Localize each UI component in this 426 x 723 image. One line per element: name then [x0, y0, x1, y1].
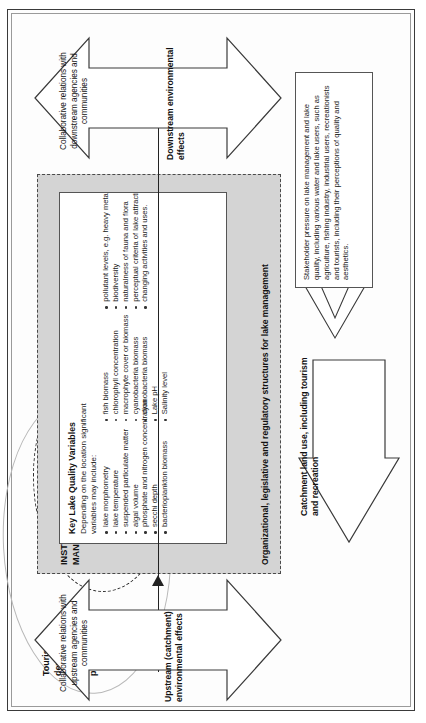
variable-list-item: pollutant levels, e.g. heavy metals [101, 202, 111, 309]
catchment-land-use-caption: Catchment land use, including tourism an… [299, 356, 321, 516]
variable-list-item: perceptual criteria of lake attractivene… [131, 202, 141, 309]
rotated-figure-wrapper: Tourism development, marketing, manageme… [0, 0, 426, 723]
upstream-effects-caption: Upstream (catchment) environmental effec… [163, 578, 185, 702]
variable-list-item: changing activities and uses. [140, 202, 150, 309]
stakeholder-pressure-box: Stakeholder pressure on lake management … [295, 72, 373, 288]
stakeholder-connector-arrow [303, 284, 367, 340]
variable-list-item: suspended particulate matter [121, 427, 131, 534]
institutional-arrangements-footer: Organizational, legislative and regulato… [260, 235, 272, 565]
variable-list-item: phosphate and nitrogen concentration [140, 427, 150, 534]
variables-box-intro: Depending on the location significant va… [79, 374, 99, 534]
upstream-collaboration-label: Collaborative relations with upstream ag… [59, 584, 91, 702]
variable-list-item: lake morphometry [101, 427, 111, 534]
variables-list: lake morphometrylake temperaturesuspende… [101, 202, 170, 534]
variable-list-item: naturalness of fauna and flora [121, 202, 131, 309]
variable-list-item: bacterioplankton biomass [160, 427, 170, 534]
stakeholder-pressure-text: Stakeholder pressure on lake management … [302, 85, 350, 279]
variable-list-item: cyanobacteria biomass [140, 314, 150, 421]
variable-list-item: lake temperature [111, 427, 121, 534]
variable-list-item: fish biomass [101, 314, 111, 421]
variable-list-item: algal volume [131, 427, 141, 534]
downstream-collaboration-label: Collaborative relations with downstream … [59, 42, 91, 160]
key-lake-quality-variables-box: Key Lake Quality Variables Depending on … [59, 192, 227, 544]
variable-list-item: chlorophyll concentration [111, 314, 121, 421]
variable-list-item: cyanobacteria biomass [131, 314, 141, 421]
diagram-canvas: Tourism development, marketing, manageme… [13, 12, 413, 712]
downstream-effects-caption: Downstream environmental effects [165, 36, 187, 160]
variable-list-item: Salinity level [160, 314, 170, 421]
variables-box-title: Key Lake Quality Variables [67, 202, 77, 534]
variable-list-item: macrophyte cover or biomass [121, 314, 131, 421]
variable-list-item: biodiversity [111, 202, 121, 309]
